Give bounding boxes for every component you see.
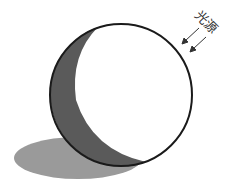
light-arrow xyxy=(190,37,206,52)
light-arrow xyxy=(182,28,199,44)
